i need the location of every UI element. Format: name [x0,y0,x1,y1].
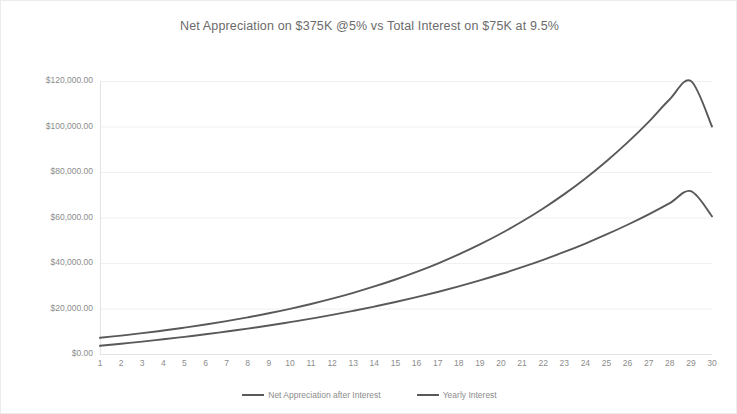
x-axis-tick-label: 9 [266,358,271,368]
x-axis-tick-label: 2 [119,358,124,368]
y-axis-tick-label: $60,000.00 [15,212,93,222]
chart-plot-area [1,1,737,414]
x-axis: 1234567891011121314151617181920212223242… [100,358,712,374]
x-axis-tick-label: 7 [224,358,229,368]
x-axis-tick-label: 12 [327,358,336,368]
x-axis-tick-label: 30 [707,358,716,368]
x-axis-tick-label: 20 [496,358,505,368]
legend-item-yearly-interest[interactable]: Yearly Interest [417,390,497,400]
y-axis-tick-label: $20,000.00 [15,303,93,313]
x-axis-tick-label: 8 [245,358,250,368]
x-axis-tick-label: 6 [203,358,208,368]
x-axis-tick-label: 21 [517,358,526,368]
x-axis-tick-label: 1 [98,358,103,368]
x-axis-tick-label: 10 [285,358,294,368]
x-axis-tick-label: 29 [686,358,695,368]
legend-line-swatch-icon [417,394,439,397]
x-axis-tick-label: 13 [349,358,358,368]
y-axis-tick-label: $0.00 [15,348,93,358]
x-axis-tick-label: 23 [560,358,569,368]
x-axis-tick-label: 25 [602,358,611,368]
x-axis-tick-label: 18 [454,358,463,368]
series-line-1 [100,191,712,346]
x-axis-tick-label: 17 [433,358,442,368]
x-axis-tick-label: 5 [182,358,187,368]
x-axis-tick-label: 11 [307,358,316,368]
y-axis-tick-label: $120,000.00 [15,75,93,85]
data-series-lines [100,80,712,346]
x-axis-tick-label: 16 [412,358,421,368]
legend-item-label: Net Appreciation after Interest [268,390,380,400]
x-axis-tick-label: 26 [623,358,632,368]
x-axis-tick-label: 4 [161,358,166,368]
chart-legend: Net Appreciation after Interest Yearly I… [1,390,737,400]
legend-item-label: Yearly Interest [443,390,497,400]
legend-line-swatch-icon [242,394,264,397]
x-axis-tick-label: 15 [391,358,400,368]
x-axis-tick-label: 14 [370,358,379,368]
y-axis-tick-label: $100,000.00 [15,121,93,131]
x-axis-tick-label: 3 [140,358,145,368]
y-axis: $0.00$20,000.00$40,000.00$60,000.00$80,0… [9,1,93,414]
y-axis-tick-label: $80,000.00 [15,166,93,176]
y-axis-tick-label: $40,000.00 [15,257,93,267]
gridlines [100,82,712,355]
x-axis-tick-label: 28 [665,358,674,368]
x-axis-tick-label: 22 [538,358,547,368]
x-axis-tick-label: 27 [644,358,653,368]
chart-container: Net Appreciation on $375K @5% vs Total I… [0,0,737,414]
x-axis-tick-label: 24 [581,358,590,368]
legend-item-net-appreciation[interactable]: Net Appreciation after Interest [242,390,380,400]
x-axis-tick-label: 19 [475,358,484,368]
